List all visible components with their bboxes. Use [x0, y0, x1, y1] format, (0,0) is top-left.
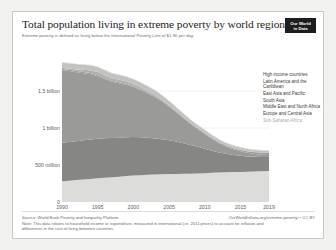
legend-item[interactable]: Latin America and the Caribbean — [263, 79, 321, 89]
y-axis-tick-label: 1.5 billion — [38, 88, 60, 94]
legend-item[interactable]: Europe and Central Asia — [263, 111, 321, 116]
legend-item[interactable]: Sub-Saharan Africa — [263, 118, 321, 123]
legend-item[interactable]: South Asia — [263, 98, 321, 103]
x-axis-tick-label: 2010 — [199, 204, 211, 210]
owid-logo[interactable]: Our World in Data — [285, 18, 316, 33]
y-axis-tick-label: 500 million — [35, 162, 60, 168]
x-axis-tick-label: 2005 — [163, 204, 175, 210]
y-axis-tick-label: 1 billion — [42, 125, 60, 131]
page-title: Total population living in extreme pover… — [22, 18, 315, 31]
x-axis-tick-label: 2015 — [235, 204, 247, 210]
note-text: Note: This data relates to household inc… — [22, 221, 280, 232]
legend-item[interactable]: High income countries — [263, 72, 321, 77]
x-axis-tick-label: 1990 — [56, 204, 68, 210]
stacked-area-chart[interactable] — [62, 54, 269, 202]
chart-footer: Source: World Bank Poverty and Inequalit… — [22, 211, 315, 232]
chart-card: Total population living in extreme pover… — [12, 11, 324, 239]
owid-logo-line2: in Data — [294, 26, 308, 31]
x-axis-tick-label: 1995 — [92, 204, 104, 210]
legend-item[interactable]: East Asia and Pacific — [263, 91, 321, 96]
chart-header: Total population living in extreme pover… — [22, 18, 315, 39]
screenshot-root: Total population living in extreme pover… — [0, 0, 336, 250]
owid-link[interactable]: OurWorldInData.org/extreme-poverty/ • CC… — [228, 215, 315, 221]
chart-legend: High income countriesLatin America and t… — [263, 72, 321, 125]
legend-item[interactable]: Middle East and North Africa — [263, 104, 321, 109]
chart-subtitle: Extreme poverty is defined as living bel… — [22, 33, 315, 39]
x-axis-tick-label: 2000 — [128, 204, 140, 210]
stacked-area-svg-wrap — [62, 54, 269, 202]
x-axis-tick-label: 2019 — [263, 204, 275, 210]
y-axis-labels: 0500 million1 billion1.5 billion — [22, 54, 62, 202]
